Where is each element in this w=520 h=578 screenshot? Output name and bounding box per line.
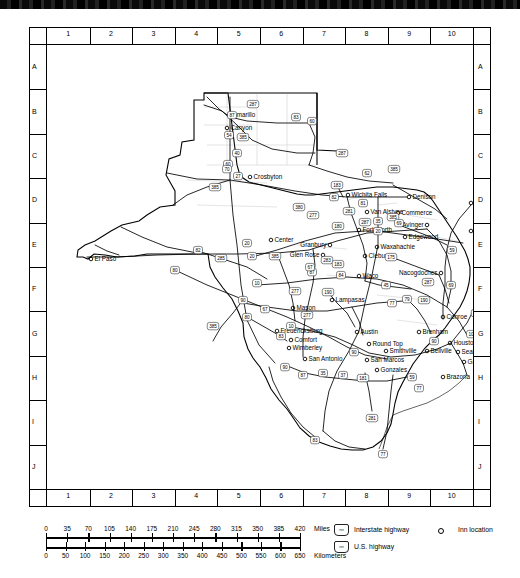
shield-number: 20 (375, 229, 381, 234)
us-highway-shield: 277 (307, 211, 319, 218)
grid-column-label: 7 (303, 492, 345, 499)
grid-row-label: E (32, 240, 37, 250)
grid-row-label: E (478, 240, 483, 250)
grid-row-tick (29, 445, 46, 446)
us-highway-shield: 67 (306, 263, 315, 270)
miles-tick (173, 533, 174, 542)
grid-row-tick (29, 267, 46, 268)
interstate-shield: 27 (234, 172, 243, 179)
grid-column-tick (132, 489, 133, 506)
grid-column-tick (217, 27, 218, 44)
shield-number: 181 (359, 376, 367, 381)
inn-location-circle-icon (438, 528, 444, 534)
shield-number: 385 (211, 185, 219, 190)
grid-row-tick (473, 223, 491, 224)
grid-row-label: D (32, 195, 37, 205)
city-label: Brazoria (447, 373, 471, 380)
grid-row-label: D (478, 195, 483, 205)
miles-tick (194, 533, 195, 542)
city-label: Waxahachie (381, 243, 416, 250)
shield-number: 190 (420, 298, 428, 303)
city-label: Waco (363, 272, 379, 279)
shield-number: 77 (380, 452, 386, 457)
us-highway-shield: 385 (237, 133, 249, 140)
us-highway-shield: 83 (311, 436, 320, 443)
inn-location-dot[interactable] (89, 257, 93, 261)
us-highway-shield: 180 (332, 222, 344, 229)
us-highway-shield: 385 (209, 183, 221, 190)
grid-column-tick (90, 27, 91, 44)
us-highway-shield: 190 (471, 309, 473, 316)
kilometers-tick (85, 542, 86, 551)
shield-number: 70 (224, 167, 230, 172)
us-highway-key-label: U.S. highway (354, 543, 394, 550)
city-label: Denison (413, 193, 437, 200)
shield-number: 20 (244, 241, 250, 246)
city-label: Gonzales (381, 366, 408, 373)
city-label: San Antonio (309, 355, 343, 362)
texas-map-plot: AmarilloCanyonCrosbytonWichita FallsDeni… (47, 45, 473, 489)
grid-row-tick (29, 134, 46, 135)
shield-number: 10 (468, 332, 473, 337)
us-highway-shield: 183 (331, 181, 343, 188)
grid-row-tick (473, 400, 491, 401)
us-highway-shield: 175 (385, 253, 397, 260)
shield-number: 175 (387, 255, 395, 260)
us-highway-shield: 87 (299, 371, 308, 378)
us-highway-shield: 181 (357, 374, 369, 381)
shield-number: 90 (431, 339, 437, 344)
us-highway-shield: 385 (207, 322, 219, 329)
grid-column-label: 5 (218, 30, 260, 37)
us-highway-shield: 60 (308, 117, 317, 124)
us-highway-shield: 287 (422, 278, 434, 285)
shield-number: 90 (282, 365, 288, 370)
shield-number: 54 (226, 133, 232, 138)
shield-number: 287 (338, 151, 346, 156)
grid-column-tick (430, 27, 431, 44)
city-label: Canyon (231, 124, 253, 132)
grid-row-label: A (478, 62, 483, 72)
kilometers-tick (105, 542, 106, 551)
kilometers-tick (280, 542, 281, 551)
grid-row-label: F (478, 284, 482, 294)
shield-number: 385 (209, 324, 217, 329)
shield-number: 87 (229, 113, 235, 118)
shield-number: 83 (293, 115, 299, 120)
interstate-key-label: Interstate highway (354, 526, 409, 533)
shield-number: 277 (291, 289, 299, 294)
miles-tick (215, 533, 216, 542)
kilometers-tick (144, 542, 145, 551)
shield-number: 20 (249, 254, 255, 259)
interstate-shield: 35 (374, 217, 383, 224)
us-highway-shield: 77 (379, 450, 388, 457)
grid-row-label: F (32, 284, 36, 294)
shield-number: 87 (300, 373, 306, 378)
interstate-shield: 40 (233, 149, 242, 156)
shield-number: 277 (303, 313, 311, 318)
miles-tick-label: 420 (288, 525, 312, 532)
grid-column-tick (260, 27, 261, 44)
us-highway-shield: 287 (359, 218, 371, 225)
us-highway-shield: 59 (448, 246, 457, 253)
us-highway-shield: 385 (269, 252, 281, 259)
us-highway-shield: 281 (343, 207, 355, 214)
us-highway-shield: 90 (239, 296, 248, 303)
grid-column-tick (260, 489, 261, 506)
shield-number: 59 (449, 248, 455, 253)
inn-location-dot[interactable] (441, 375, 445, 379)
grid-column-label: 5 (218, 492, 260, 499)
shield-number: 285 (217, 256, 225, 261)
kilometers-tick (241, 542, 242, 551)
shield-number: 40 (234, 151, 240, 156)
grid-row-label: C (478, 151, 483, 161)
inn-location-dot[interactable] (248, 175, 252, 179)
grid-column-label: 7 (303, 30, 345, 37)
grid-column-tick (90, 489, 91, 506)
inn-location-dot[interactable] (469, 201, 473, 205)
shield-number: 84 (338, 273, 344, 278)
grid-row-label: A (32, 62, 37, 72)
miles-tick (110, 533, 111, 542)
inn-location-dot[interactable] (469, 229, 473, 233)
shield-number: 80 (172, 268, 178, 273)
us-highway-shield: 90 (281, 363, 290, 370)
